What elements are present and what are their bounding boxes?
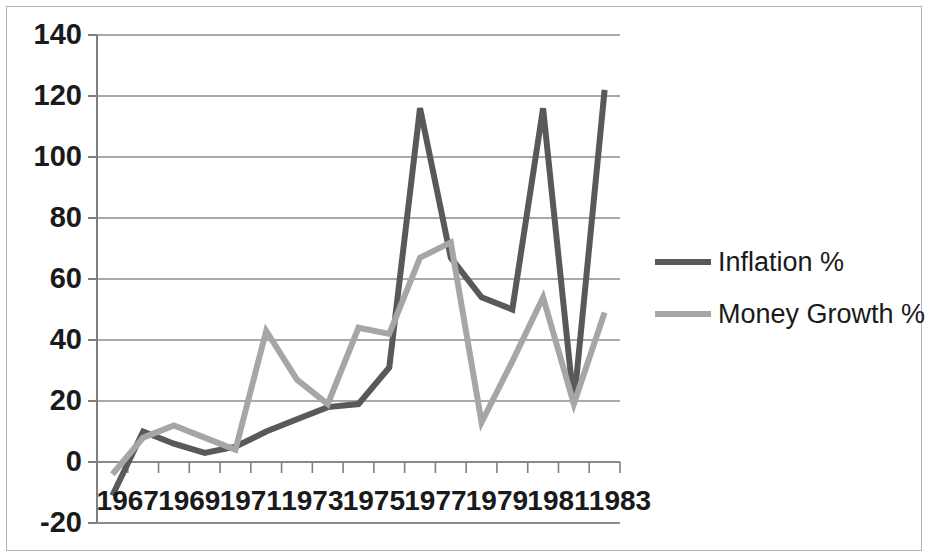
y-axis-ticks	[88, 35, 97, 523]
chart-legend: Inflation % Money Growth %	[655, 236, 920, 340]
data-series-layer	[112, 90, 604, 496]
x-axis-ticks	[97, 462, 620, 473]
y-tick-label: 100	[14, 142, 82, 171]
legend-swatch-inflation	[655, 259, 711, 265]
y-tick-label: 80	[14, 203, 82, 232]
y-tick-label: 0	[14, 447, 82, 476]
series-line-inflation	[112, 90, 604, 496]
y-tick-label: 40	[14, 325, 82, 354]
x-tick-label: 1983	[575, 487, 665, 515]
y-tick-label: 120	[14, 81, 82, 110]
legend-item-inflation[interactable]: Inflation %	[655, 236, 920, 288]
series-line-money-growth	[112, 242, 604, 474]
y-tick-label: 60	[14, 264, 82, 293]
legend-label-money-growth: Money Growth %	[718, 301, 925, 328]
y-tick-label: -20	[14, 508, 82, 537]
legend-swatch-money-growth	[655, 311, 711, 317]
chart-container: 140120100806040200-20 196719691971197319…	[0, 0, 930, 559]
y-tick-label: 20	[14, 386, 82, 415]
y-tick-label: 140	[14, 20, 82, 49]
legend-item-money-growth[interactable]: Money Growth %	[655, 288, 920, 340]
legend-label-inflation: Inflation %	[718, 249, 844, 276]
